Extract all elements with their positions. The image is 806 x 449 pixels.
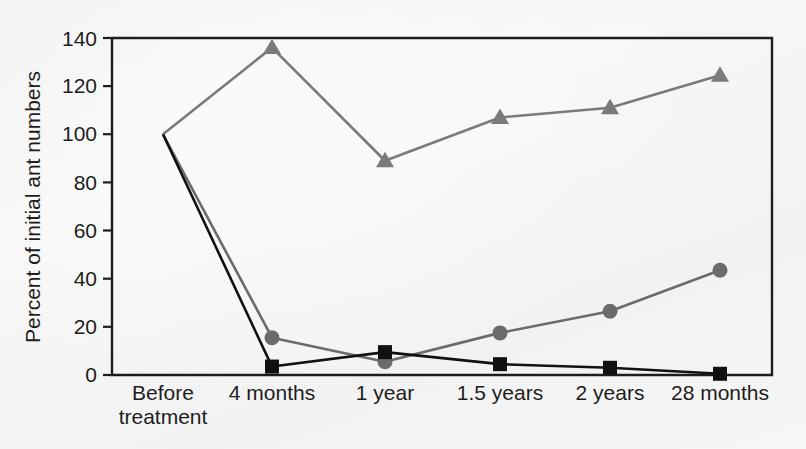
series-square [163,134,727,381]
y-tick-label-120: 120 [62,74,97,97]
category-label-2-years: 2 years [576,381,645,404]
data-point-square-3 [493,357,507,371]
data-point-square-4 [603,361,617,375]
y-axis-ticks [103,38,112,375]
data-point-triangle-5 [711,66,729,81]
data-point-square-5 [713,367,727,381]
series-line-circle [163,134,720,361]
y-tick-label-140: 140 [62,27,97,50]
y-tick-label-0: 0 [85,363,97,386]
series-layer [163,39,729,381]
x-axis-category-labels: Before treatment 4 months 1 year 1.5 yea… [119,381,769,428]
y-axis-title: Percent of initial ant numbers [21,71,44,343]
line-chart: 0 20 40 60 80 100 120 140 Percent of ini… [0,0,806,449]
data-point-circle-3 [493,325,508,340]
y-tick-label-80: 80 [74,171,97,194]
data-point-triangle-1 [263,39,281,54]
data-point-square-2 [378,345,392,359]
data-point-circle-1 [265,330,280,345]
category-label-1-5-years: 1.5 years [457,381,543,404]
y-tick-label-20: 20 [74,315,97,338]
y-tick-label-60: 60 [74,219,97,242]
y-tick-label-100: 100 [62,122,97,145]
category-label-1-year: 1 year [356,381,414,404]
y-tick-label-40: 40 [74,267,97,290]
series-line-triangle [163,48,720,161]
category-label-28-months: 28 months [671,381,769,404]
category-label-4-months: 4 months [229,381,315,404]
series-line-square [163,134,720,374]
data-point-circle-4 [603,304,618,319]
series-triangle [163,39,729,168]
data-point-square-1 [265,360,279,374]
data-point-circle-5 [713,263,728,278]
series-circle [163,134,728,369]
y-axis-tick-labels: 0 20 40 60 80 100 120 140 [62,27,97,386]
figure-container: 0 20 40 60 80 100 120 140 Percent of ini… [0,0,806,449]
category-label-before-treatment-line1: Before [132,381,194,404]
category-label-before-treatment-line2: treatment [119,405,208,428]
